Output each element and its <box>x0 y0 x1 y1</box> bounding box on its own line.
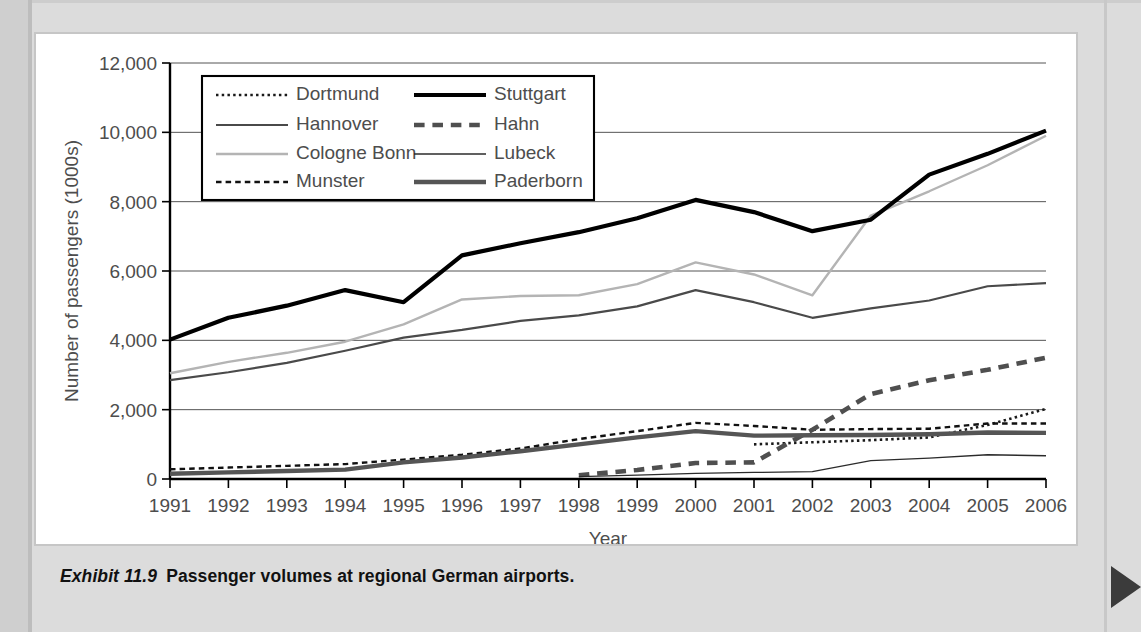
legend-label-cologne-bonn: Cologne Bonn <box>296 142 416 163</box>
x-tick-label: 1998 <box>558 495 600 516</box>
x-tick-label: 1996 <box>441 495 483 516</box>
y-tick-label: 2,000 <box>109 400 157 421</box>
legend-label-stuttgart: Stuttgart <box>494 83 567 104</box>
x-tick-label: 1992 <box>207 495 249 516</box>
y-tick-label: 10,000 <box>99 122 157 143</box>
x-tick-label: 1999 <box>616 495 658 516</box>
x-tick-label: 2003 <box>850 495 892 516</box>
chart-figure: 02,0004,0006,0008,00010,00012,0001991199… <box>36 34 1076 544</box>
figure-caption: Exhibit 11.9Passenger volumes at regiona… <box>60 566 574 587</box>
x-tick-label: 1997 <box>499 495 541 516</box>
y-tick-label: 4,000 <box>109 330 157 351</box>
y-tick-label: 6,000 <box>109 261 157 282</box>
y-axis-label: Number of passengers (1000s) <box>61 140 82 402</box>
x-tick-label: 1993 <box>266 495 308 516</box>
x-axis-label: Year <box>589 528 628 544</box>
page-left-gutter-edge <box>28 0 32 632</box>
x-tick-label: 2004 <box>908 495 951 516</box>
legend-label-dortmund: Dortmund <box>296 83 379 104</box>
x-tick-label: 2000 <box>674 495 716 516</box>
x-tick-label: 2005 <box>966 495 1008 516</box>
legend-label-hannover: Hannover <box>296 113 379 134</box>
caption-exhibit-number: Exhibit 11.9 <box>60 566 157 586</box>
y-tick-label: 0 <box>146 469 157 490</box>
legend-label-paderborn: Paderborn <box>494 170 583 191</box>
legend-label-hahn: Hahn <box>494 113 539 134</box>
x-tick-label: 1991 <box>149 495 191 516</box>
caption-text: Passenger volumes at regional German air… <box>166 566 574 586</box>
x-tick-label: 2006 <box>1025 495 1067 516</box>
chart-panel: 02,0004,0006,0008,00010,00012,0001991199… <box>36 34 1076 544</box>
x-tick-label: 2001 <box>733 495 775 516</box>
x-tick-label: 2002 <box>791 495 833 516</box>
legend-label-munster: Munster <box>296 170 365 191</box>
chart-legend: DortmundHannoverCologne BonnMunsterStutt… <box>202 76 594 200</box>
x-tick-label: 1995 <box>382 495 424 516</box>
y-tick-label: 8,000 <box>109 192 157 213</box>
page-left-gutter <box>0 0 28 632</box>
legend-label-lubeck: Lubeck <box>494 142 556 163</box>
page-right-edge <box>1104 0 1107 632</box>
page-top-edge <box>0 0 1141 3</box>
line-chart: 02,0004,0006,0008,00010,00012,0001991199… <box>36 34 1076 544</box>
y-tick-label: 12,000 <box>99 53 157 74</box>
x-tick-label: 1994 <box>324 495 367 516</box>
page-corner-arrow-icon <box>1111 566 1141 608</box>
